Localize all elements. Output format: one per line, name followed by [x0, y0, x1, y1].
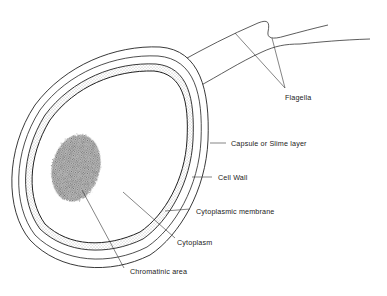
bacterial-cell-diagram: [0, 0, 387, 296]
label-cytoplasmic-membrane: Cytoplasmic membrane: [196, 207, 275, 216]
label-chromatinic-area: Chromatinic area: [130, 267, 187, 276]
label-flagella: Flagella: [285, 93, 311, 102]
label-cell-wall: Cell Wall: [218, 173, 247, 182]
flagella: [178, 21, 370, 88]
label-capsule: Capsule or Slime layer: [231, 139, 307, 148]
label-cytoplasm: Cytoplasm: [177, 238, 212, 247]
